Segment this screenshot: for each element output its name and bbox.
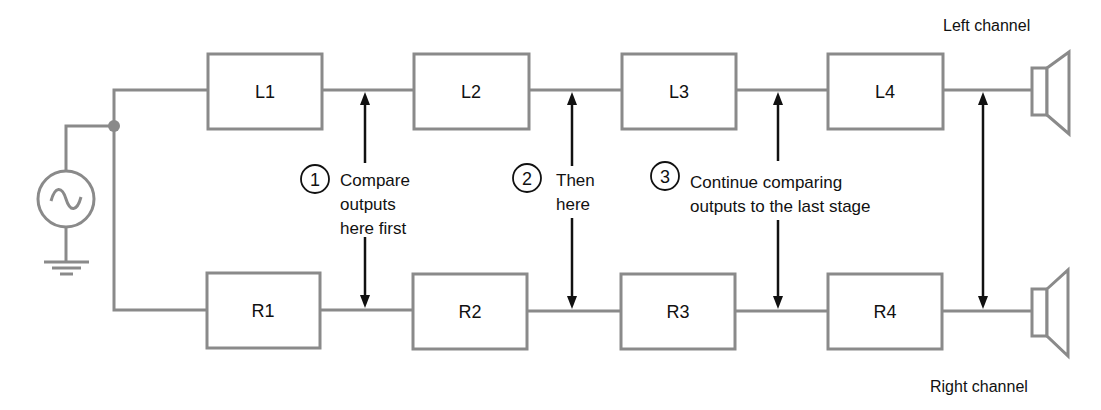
stage-r1: R1 [207,273,320,348]
input-bus [114,90,208,310]
right-channel-label: Right channel [930,378,1028,395]
step-text-line: here first [340,219,406,238]
stage-l4: L4 [828,54,943,129]
left-speaker-icon [1032,52,1069,134]
stage-label: L2 [461,82,481,102]
stage-l3: L3 [622,54,736,129]
step-3-annotation: 3 Continue comparing outputs to the last… [651,162,871,216]
step-text-line: Compare [340,171,410,190]
step-text-line: outputs to the last stage [690,197,871,216]
signal-source [38,126,114,274]
stage-label: R1 [251,301,274,321]
junction-dot [108,120,120,132]
right-speaker-icon [1032,270,1068,356]
stage-label: L3 [669,82,689,102]
stage-r2: R2 [413,274,527,349]
compare-arrow-4 [978,92,988,309]
stage-label: R4 [873,302,896,322]
stage-r4: R4 [828,274,942,349]
stage-label: R2 [458,302,481,322]
step-1-annotation: 1 Compare outputs here first [301,165,410,238]
source-wire [66,126,114,171]
step-number: 1 [310,170,320,190]
step-text-line: Then [556,171,595,190]
left-channel-label: Left channel [943,17,1030,34]
step-2-annotation: 2 Then here [513,164,595,214]
step-number: 3 [660,167,670,187]
stereo-comparison-diagram: L1 L2 L3 L4 R1 R2 R3 R4 Left channel Rig… [0,0,1101,410]
stage-label: L4 [875,82,895,102]
ground-icon [44,262,89,274]
stage-l1: L1 [208,54,322,129]
stage-label: L1 [255,82,275,102]
step-text-line: here [556,195,590,214]
stage-label: R3 [666,302,689,322]
step-text-line: Continue comparing [690,173,842,192]
stage-l2: L2 [414,54,529,129]
step-number: 2 [522,169,532,189]
step-text-line: outputs [340,195,396,214]
stage-r3: R3 [621,274,735,349]
